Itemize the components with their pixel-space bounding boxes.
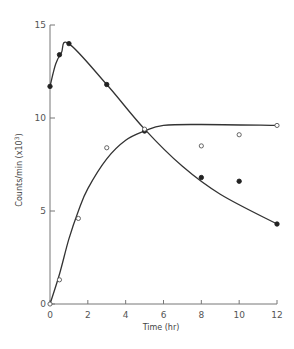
open-circle-marker — [105, 146, 109, 150]
curves — [50, 42, 277, 304]
filled-circle-marker — [48, 84, 52, 88]
open-circle-marker — [48, 302, 52, 306]
x-tick-label: 8 — [198, 310, 204, 320]
x-tick-label: 12 — [271, 310, 282, 320]
filled-circle-marker — [105, 82, 109, 86]
open-circle-marker — [275, 123, 279, 127]
y-tick-label: 0 — [40, 299, 46, 309]
filled-circle-marker — [67, 41, 71, 45]
y-tick-label: 10 — [35, 113, 47, 123]
filled-circle-marker — [199, 175, 203, 179]
x-tick-label: 0 — [47, 310, 53, 320]
axes: 024681012051015 — [35, 20, 283, 320]
x-axis-label: Time (hr) — [142, 323, 180, 332]
filled-circle-marker — [57, 53, 61, 57]
x-tick-label: 6 — [161, 310, 167, 320]
x-tick-label: 4 — [123, 310, 129, 320]
chart: 024681012051015 Time (hr) Counts/min (x1… — [0, 0, 294, 349]
y-axis-label: Counts/min (x103) — [13, 133, 24, 206]
open-circle-marker — [199, 144, 203, 148]
markers — [48, 41, 279, 306]
x-tick-label: 2 — [85, 310, 91, 320]
open-circle-marker — [57, 278, 61, 282]
filled-circle-marker — [275, 222, 279, 226]
x-tick-label: 10 — [233, 310, 245, 320]
series-curve-2 — [50, 124, 277, 304]
open-circle-marker — [237, 133, 241, 137]
open-circle-marker — [76, 216, 80, 220]
open-circle-marker — [142, 127, 146, 131]
y-tick-label: 15 — [35, 20, 46, 30]
filled-circle-marker — [237, 179, 241, 183]
y-tick-label: 5 — [40, 206, 46, 216]
